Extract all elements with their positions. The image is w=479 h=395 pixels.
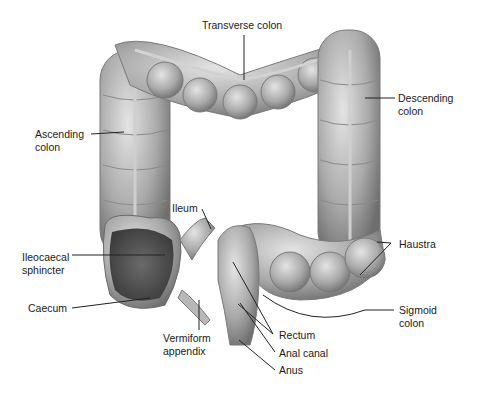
label-descending-colon-line1: Descending	[398, 92, 453, 104]
label-ascending-colon-line2: colon	[35, 141, 60, 153]
descending-colon-shape	[318, 30, 380, 260]
label-sigmoid-line1: Sigmoid	[399, 304, 437, 316]
label-haustra: Haustra	[399, 238, 436, 250]
label-ileum: Ileum	[172, 202, 198, 214]
ileum-shape	[178, 218, 215, 325]
colon-illustration	[0, 0, 479, 395]
label-anus: Anus	[279, 364, 303, 376]
label-sigmoid-line2: colon	[399, 317, 424, 329]
label-descending-colon-line2: colon	[398, 105, 423, 117]
caecum-shape	[103, 215, 181, 308]
large-intestine-diagram: Transverse colon Descending colon Ascend…	[0, 0, 479, 395]
rectum-shape	[218, 226, 259, 345]
label-rectum: Rectum	[279, 329, 315, 341]
label-transverse-colon: Transverse colon	[202, 19, 282, 31]
label-appendix-line1: Vermiform	[163, 332, 211, 344]
label-appendix-line2: appendix	[163, 345, 206, 357]
label-ileocaecal-line2: sphincter	[22, 264, 65, 276]
label-ascending-colon-line1: Ascending	[35, 128, 84, 140]
label-caecum: Caecum	[28, 302, 67, 314]
label-ileocaecal-line1: Ileocaecal	[22, 251, 69, 263]
label-anal-canal: Anal canal	[279, 347, 328, 359]
